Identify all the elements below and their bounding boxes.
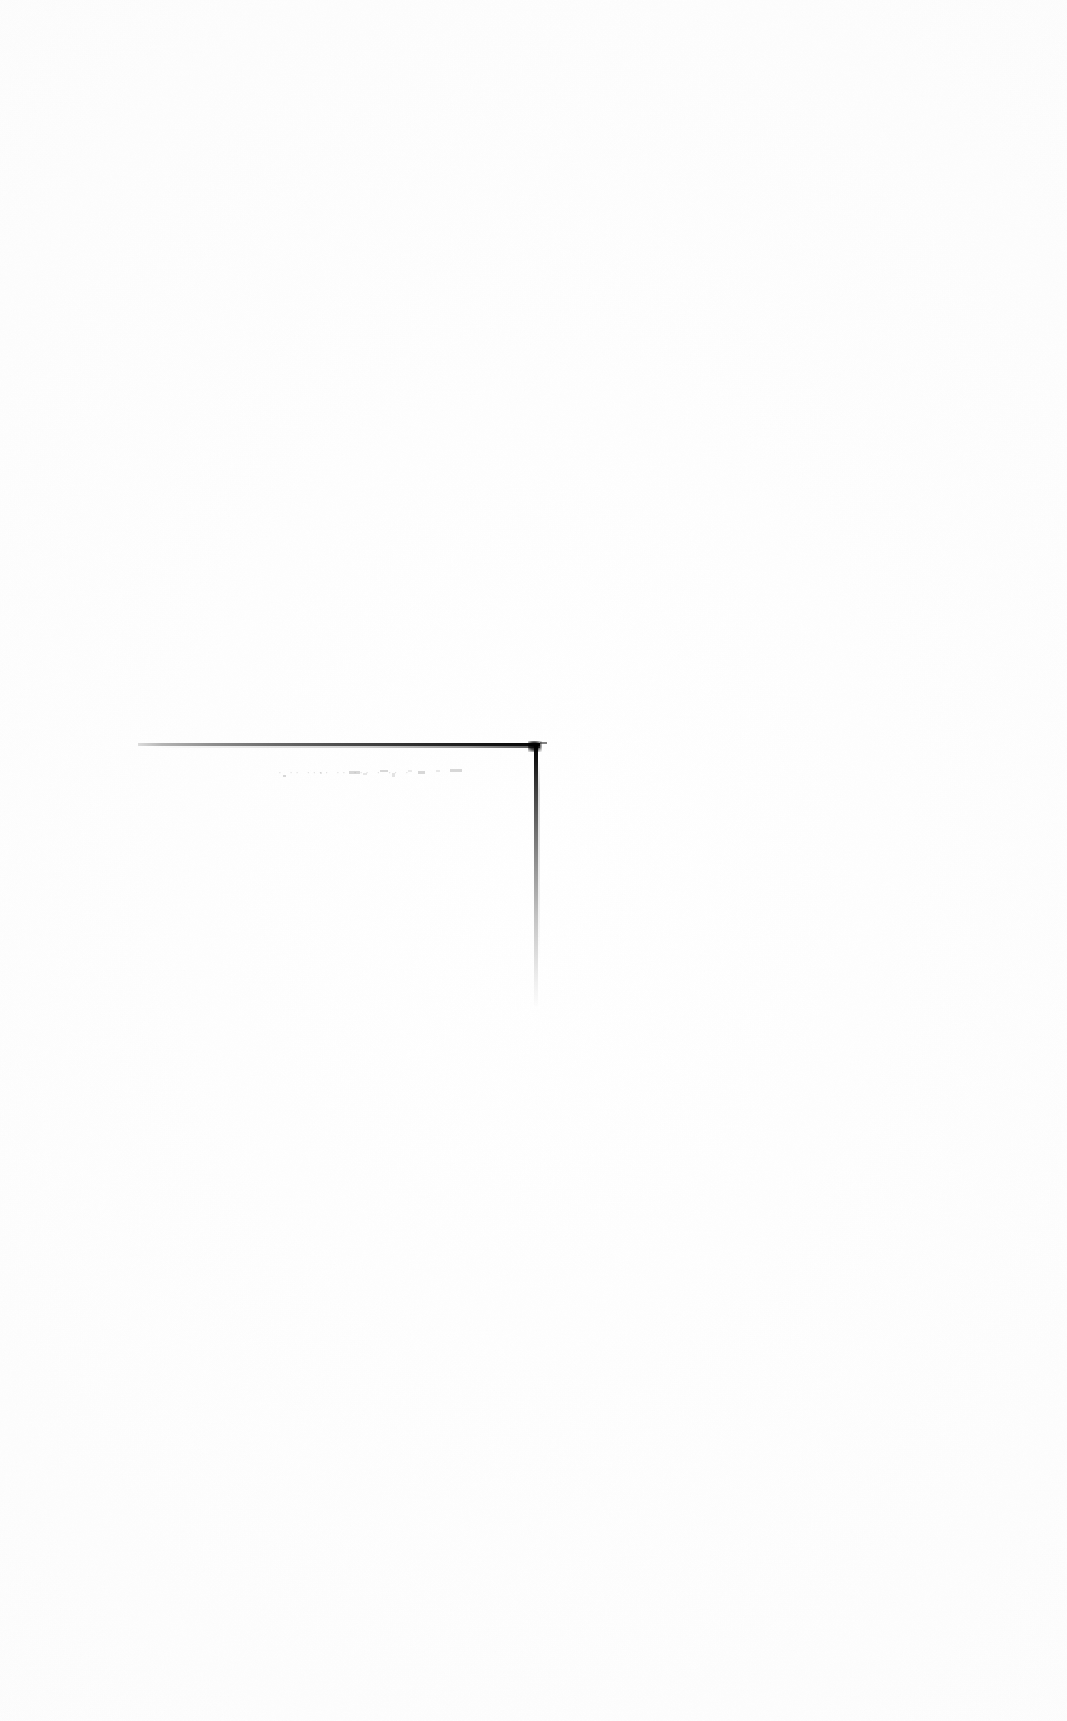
corner-overshoot-tick (540, 742, 547, 744)
ghost-fleck (320, 772, 322, 774)
vertical-rule-core (538, 760, 540, 960)
ruled-lines-layer (0, 0, 1067, 1721)
ghost-fleck (380, 770, 388, 772)
ghost-fleck (436, 770, 440, 772)
ghost-fleck (408, 770, 412, 772)
ghost-fleck (349, 771, 360, 774)
horizontal-rule-shadow (150, 746, 540, 748)
ghost-fleck (392, 773, 395, 777)
ghost-fleck (450, 769, 462, 772)
ghost-fleck (283, 775, 286, 777)
scanned-page: · ·· ···· ·· ··· · ·· · (0, 0, 1067, 1721)
ghost-fleck (363, 773, 367, 775)
ghost-fleck (418, 771, 425, 774)
ghost-text: · ·· ···· ·· ··· · ·· · (278, 766, 468, 782)
